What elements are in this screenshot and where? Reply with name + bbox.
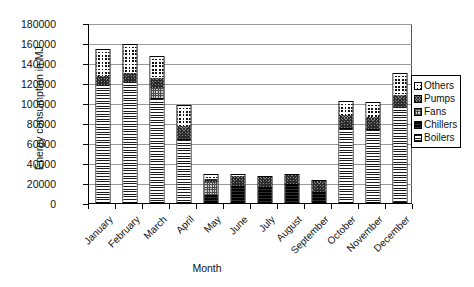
stacked-bar[interactable] [365, 102, 380, 203]
bar-segment-chillers [285, 184, 298, 202]
bar-slot[interactable] [224, 24, 251, 203]
bar-segment-others [123, 45, 136, 73]
bar-segment-others [177, 106, 190, 126]
bar-series-group [89, 24, 412, 203]
bar-segment-pumps [177, 126, 190, 139]
bar-segment-pumps [258, 177, 271, 187]
x-axis-title: Month [0, 262, 474, 274]
stacked-bar[interactable] [230, 174, 245, 203]
x-axis-tick-mark [196, 204, 197, 209]
stacked-bar[interactable] [311, 180, 326, 203]
bar-segment-pumps [123, 73, 136, 82]
x-axis-tick-mark [331, 204, 332, 209]
legend-item-pumps[interactable]: Pumps [414, 92, 457, 105]
bar-slot[interactable] [197, 24, 224, 203]
bar-segment-pumps [393, 95, 406, 107]
y-axis-tick-label: 140000 [0, 58, 56, 70]
bar-segment-pumps [231, 176, 244, 186]
y-axis-tick-label: 0 [0, 198, 56, 210]
bar-segment-pumps [285, 175, 298, 184]
legend-swatch-icon [414, 82, 422, 90]
bar-segment-chillers [312, 192, 325, 202]
legend-swatch-icon [414, 134, 422, 142]
y-axis-tick-label: 100000 [0, 98, 56, 110]
stacked-bar[interactable] [338, 101, 353, 203]
stacked-bar[interactable] [392, 73, 407, 203]
y-axis-tick-label: 80000 [0, 118, 56, 130]
bar-segment-pumps [366, 117, 379, 129]
bar-slot[interactable] [386, 24, 413, 203]
bar-slot[interactable] [359, 24, 386, 203]
y-axis-tick-label: 160000 [0, 38, 56, 50]
stacked-bar[interactable] [176, 105, 191, 203]
stacked-bar[interactable] [257, 176, 272, 203]
bar-segment-others [393, 74, 406, 95]
chart-legend: OthersPumpsFansChillersBoilers [411, 75, 461, 148]
x-axis-tick-mark [385, 204, 386, 209]
bar-segment-pumps [150, 78, 163, 88]
x-axis-tick-mark [304, 204, 305, 209]
y-axis-tick-label: 40000 [0, 158, 56, 170]
bar-segment-others [96, 50, 109, 76]
legend-item-boilers[interactable]: Boilers [414, 131, 457, 144]
y-axis-tick-label: 20000 [0, 178, 56, 190]
legend-label: Fans [424, 107, 446, 117]
stacked-bar[interactable] [284, 174, 299, 203]
bar-slot[interactable] [305, 24, 332, 203]
bar-slot[interactable] [170, 24, 197, 203]
x-axis-tick-mark [412, 204, 413, 209]
x-axis-tick-mark [169, 204, 170, 209]
x-axis-title-text: Month [192, 262, 221, 274]
x-axis-tick-mark [115, 204, 116, 209]
bar-segment-boilers [177, 140, 190, 202]
x-axis-tick-mark [358, 204, 359, 209]
x-axis-tick-mark [277, 204, 278, 209]
bar-segment-others [339, 102, 352, 115]
legend-item-fans[interactable]: Fans [414, 105, 457, 118]
bar-slot[interactable] [116, 24, 143, 203]
bar-segment-others [150, 57, 163, 78]
x-axis-tick-label: March [19, 214, 168, 287]
legend-swatch-icon [414, 95, 422, 103]
bar-segment-chillers [231, 186, 244, 202]
legend-label: Pumps [424, 94, 455, 104]
x-axis-tick-mark [142, 204, 143, 209]
bar-segment-boilers [393, 107, 406, 202]
stacked-bar[interactable] [203, 174, 218, 203]
x-axis-tick-mark [250, 204, 251, 209]
bar-segment-fans [204, 182, 217, 195]
bar-segment-pumps [96, 76, 109, 85]
stacked-bar[interactable] [95, 49, 110, 203]
legend-label: Chillers [424, 120, 457, 130]
bar-segment-fans [150, 88, 163, 98]
bar-segment-boilers [366, 130, 379, 202]
legend-item-others[interactable]: Others [414, 79, 457, 92]
x-axis-tick-mark [88, 204, 89, 209]
plot-area [88, 24, 412, 204]
bar-slot[interactable] [251, 24, 278, 203]
bar-segment-pumps [339, 115, 352, 128]
bar-slot[interactable] [332, 24, 359, 203]
y-axis-tick-label: 60000 [0, 138, 56, 150]
legend-item-chillers[interactable]: Chillers [414, 118, 457, 131]
bar-segment-boilers [339, 129, 352, 202]
bar-segment-chillers [258, 187, 271, 202]
legend-label: Boilers [424, 133, 455, 143]
bar-slot[interactable] [89, 24, 116, 203]
x-axis-tick-mark [223, 204, 224, 209]
bar-slot[interactable] [278, 24, 305, 203]
bar-segment-boilers [150, 99, 163, 202]
bar-segment-pumps [312, 181, 325, 192]
stacked-bar[interactable] [122, 44, 137, 203]
bar-segment-chillers [204, 195, 217, 202]
stacked-bar[interactable] [149, 56, 164, 203]
legend-swatch-icon [414, 108, 422, 116]
legend-swatch-icon [414, 121, 422, 129]
bar-slot[interactable] [143, 24, 170, 203]
y-axis-tick-label: 120000 [0, 78, 56, 90]
y-axis-tick-label: 180000 [0, 18, 56, 30]
bar-segment-boilers [96, 85, 109, 202]
chart-figure: Energy consumption in MJ 020000400006000… [0, 0, 474, 287]
bar-segment-boilers [123, 82, 136, 202]
bar-segment-others [366, 103, 379, 117]
